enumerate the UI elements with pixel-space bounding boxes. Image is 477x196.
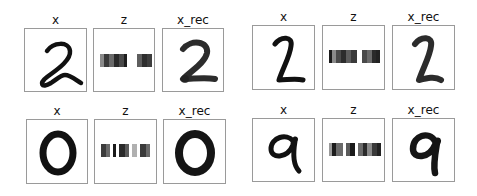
panel-x-rec: x_rec	[392, 118, 455, 182]
panel-x: x	[252, 25, 315, 90]
panel-title: x	[26, 105, 88, 117]
z-cell	[377, 143, 381, 156]
panel-title: x_rec	[163, 105, 226, 117]
panel-x: x	[26, 119, 88, 184]
panel-title: z	[322, 104, 385, 116]
reconstruction-image	[163, 119, 226, 184]
digit-0-glyph	[164, 120, 226, 184]
latent-code-strip	[101, 144, 153, 157]
digit-0-glyph	[27, 120, 88, 184]
panel-title: z	[93, 14, 155, 26]
panel-title: x	[252, 11, 315, 23]
latent-frame	[93, 28, 155, 92]
panel-title: z	[322, 11, 385, 23]
reconstruction-image	[162, 28, 224, 92]
input-image	[26, 119, 88, 184]
panel-x-rec: x_rec	[392, 25, 455, 90]
panel-z: z	[322, 118, 385, 182]
panel-title: x	[24, 14, 87, 26]
latent-code-strip	[100, 54, 152, 67]
panel-x: x	[24, 28, 87, 92]
latent-code-strip	[329, 50, 381, 63]
z-cell	[147, 54, 152, 67]
panel-x-rec: x_rec	[162, 28, 224, 92]
latent-frame	[322, 118, 385, 182]
z-cell	[336, 143, 343, 156]
digit-2-glyph	[393, 26, 455, 90]
reconstruction-image	[392, 25, 455, 90]
input-image	[252, 25, 315, 90]
digit-2-glyph	[253, 26, 315, 90]
panel-x-rec: x_rec	[163, 119, 226, 184]
latent-code-strip	[329, 143, 381, 156]
panel-title: z	[94, 105, 157, 117]
digit-9-glyph	[253, 119, 315, 182]
input-image	[252, 118, 315, 182]
latent-frame	[322, 25, 385, 90]
panel-title: x_rec	[392, 104, 455, 116]
latent-frame	[94, 119, 157, 184]
panel-title: x	[252, 104, 315, 116]
reconstruction-image	[392, 118, 455, 182]
input-image	[24, 28, 87, 92]
panel-z: z	[94, 119, 157, 184]
z-cell	[146, 144, 150, 157]
panel-title: x_rec	[392, 11, 455, 23]
panel-z: z	[322, 25, 385, 90]
panel-x: x	[252, 118, 315, 182]
panel-title: x_rec	[162, 14, 224, 26]
digit-9-glyph	[393, 119, 455, 182]
z-cell	[376, 50, 380, 63]
digit-2-glyph	[163, 29, 224, 92]
digit-2-glyph	[25, 29, 87, 92]
z-cell	[127, 54, 137, 67]
panel-z: z	[93, 28, 155, 92]
